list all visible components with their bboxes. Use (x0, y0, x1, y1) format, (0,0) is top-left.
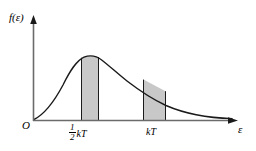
x-tick-label-kt: kT (146, 127, 156, 137)
tick-symbol-kt: kT (146, 127, 156, 137)
x-axis-arrowhead (228, 117, 238, 124)
shaded-region-half-kt (82, 56, 99, 120)
x-axis-label: ε (238, 124, 242, 135)
distribution-curve (34, 56, 232, 120)
fraction-denominator: 2 (69, 132, 76, 142)
plot-area (0, 0, 256, 151)
energy-distribution-figure: f(ε) ε O 1 2 kT kT (0, 0, 256, 151)
tick-symbol-kt: kT (77, 129, 87, 139)
fraction-one-half: 1 2 (69, 123, 76, 143)
y-axis-label: f(ε) (9, 12, 24, 23)
origin-label: O (22, 120, 30, 131)
y-axis-arrowhead (30, 15, 37, 24)
fraction-numerator: 1 (69, 123, 76, 132)
x-tick-label-half-kt: 1 2 kT (69, 124, 87, 144)
